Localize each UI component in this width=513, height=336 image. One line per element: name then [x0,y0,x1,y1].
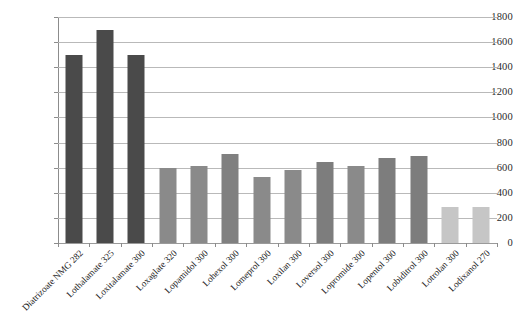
bar[interactable] [65,55,82,243]
bar-slot [278,17,309,243]
bar-slot [340,17,371,243]
bar-slot [309,17,340,243]
bar-slot [246,17,277,243]
bar-slot [58,17,89,243]
x-tick-mark [58,243,59,247]
bar-chart: 020040060080010001200140016001800 Diatri… [0,0,513,336]
bar[interactable] [97,30,114,243]
bar-slot [403,17,434,243]
bar-slot [466,17,497,243]
